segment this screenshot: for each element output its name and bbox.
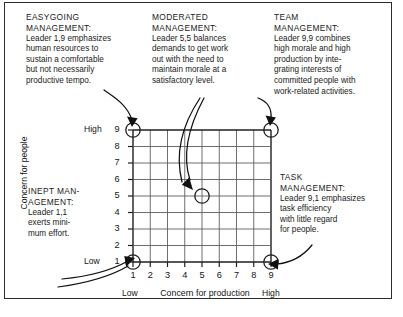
y-axis-title: Concern for people — [19, 123, 29, 223]
y-tick-label-7: 7 — [111, 157, 123, 167]
x-tick-label-3: 3 — [162, 270, 174, 280]
y-axis-high-label: High — [84, 124, 102, 134]
y-tick-label-5: 5 — [111, 190, 123, 200]
grid-lines — [133, 130, 271, 262]
arrow-to-5-5 — [179, 98, 204, 190]
x-tick-label-2: 2 — [144, 270, 156, 280]
y-axis-low-label: Low — [84, 256, 100, 266]
y-tick-label-6: 6 — [111, 174, 123, 184]
y-tick-label-4: 4 — [111, 207, 123, 217]
y-tick-label-1: 1 — [111, 256, 123, 266]
y-tick-label-8: 8 — [111, 141, 123, 151]
x-tick-label-5: 5 — [196, 270, 208, 280]
x-tick-label-4: 4 — [179, 270, 191, 280]
arrow-to-9-9 — [258, 98, 276, 126]
x-tick-label-8: 8 — [248, 270, 260, 280]
y-tick-label-3: 3 — [111, 223, 123, 233]
x-tick-label-1: 1 — [127, 270, 139, 280]
x-axis-title: Concern for production — [130, 288, 280, 298]
x-tick-label-7: 7 — [231, 270, 243, 280]
y-tick-label-9: 9 — [111, 124, 123, 134]
axis-tick-marks — [128, 130, 271, 267]
managerial-grid-figure: EASYGOING MANAGEMENT: Leader 1,9 emphasi… — [0, 0, 403, 317]
x-tick-label-6: 6 — [213, 270, 225, 280]
y-tick-label-2: 2 — [111, 240, 123, 250]
arrow-to-1-9 — [104, 90, 138, 127]
x-tick-label-9: 9 — [265, 270, 277, 280]
arrow-to-9-1 — [268, 245, 312, 269]
